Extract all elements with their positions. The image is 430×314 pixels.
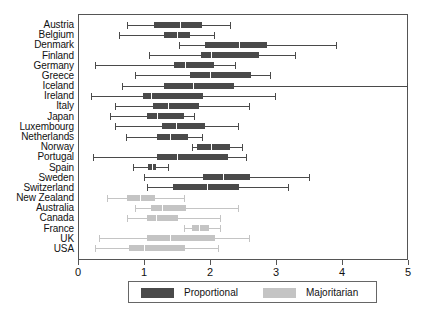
x-axis-tick xyxy=(408,260,409,265)
whisker-cap-min xyxy=(107,195,108,202)
x-axis-tick-label: 2 xyxy=(207,266,213,279)
median-line xyxy=(144,244,145,252)
y-axis-label-usa: USA xyxy=(0,244,74,254)
median-line xyxy=(180,21,181,29)
whisker-cap-max xyxy=(295,52,296,59)
whisker-cap-max xyxy=(220,225,221,232)
whisker-cap-max xyxy=(246,154,247,161)
box-iqr xyxy=(164,83,234,89)
x-axis-tick-label: 5 xyxy=(405,266,411,279)
whisker-cap-min xyxy=(93,154,94,161)
whisker-cap-max xyxy=(336,42,337,49)
legend-label-proportional: Proportional xyxy=(184,287,238,299)
median-line xyxy=(152,163,153,171)
box-iqr xyxy=(143,93,204,99)
median-line xyxy=(185,61,186,69)
whisker-cap-max xyxy=(220,215,221,222)
box-iqr xyxy=(147,113,184,119)
box-plot-chart: AustriaBelgiumDenmarkFinlandGermanyGreec… xyxy=(0,0,430,314)
box-iqr xyxy=(190,72,251,78)
median-line xyxy=(162,204,163,212)
whisker-cap-max xyxy=(275,93,276,100)
x-axis-tick-labels: 012345 xyxy=(78,266,408,282)
whisker-cap-max xyxy=(184,195,185,202)
x-axis-tick xyxy=(144,260,145,265)
median-line xyxy=(170,133,171,141)
whisker-cap-min xyxy=(115,103,116,110)
whisker-cap-max xyxy=(194,113,195,120)
box-plot-row xyxy=(78,243,408,254)
whisker-cap-min xyxy=(127,215,128,222)
median-line xyxy=(211,143,212,151)
whisker-cap-max xyxy=(168,164,169,171)
y-axis-label-italy: Italy xyxy=(0,101,74,111)
median-line xyxy=(156,214,157,222)
box-iqr xyxy=(174,62,214,68)
box-iqr xyxy=(197,144,230,150)
x-axis-tick xyxy=(276,260,277,265)
whisker-cap-max xyxy=(214,32,215,39)
whisker-cap-max xyxy=(218,245,219,252)
box-iqr xyxy=(201,52,259,58)
box-iqr xyxy=(153,103,199,109)
whisker-cap-max xyxy=(407,83,408,90)
y-axis-label-portugal: Portugal xyxy=(0,152,74,162)
median-line xyxy=(193,82,194,90)
box-iqr xyxy=(157,134,187,140)
y-axis-label-denmark: Denmark xyxy=(0,40,74,50)
whisker-cap-min xyxy=(126,134,127,141)
box-iqr xyxy=(205,42,268,48)
box-iqr xyxy=(154,22,202,28)
box-iqr xyxy=(203,174,249,180)
whisker-cap-min xyxy=(135,72,136,79)
whisker-cap-min xyxy=(147,184,148,191)
median-line xyxy=(176,122,177,130)
whisker-cap-max xyxy=(288,184,289,191)
median-line xyxy=(211,51,212,59)
whisker-cap-max xyxy=(309,174,310,181)
whisker-cap-min xyxy=(119,32,120,39)
whisker-cap-max xyxy=(238,123,239,130)
whisker-cap-min xyxy=(135,205,136,212)
whisker-cap-max xyxy=(238,205,239,212)
median-line xyxy=(170,234,171,242)
y-axis-label-canada: Canada xyxy=(0,213,74,223)
box-iqr xyxy=(173,184,239,190)
y-axis-category-labels: AustriaBelgiumDenmarkFinlandGermanyGreec… xyxy=(0,14,74,260)
whisker-cap-min xyxy=(144,174,145,181)
whisker-cap-min xyxy=(91,93,92,100)
whisker-cap-min xyxy=(149,52,150,59)
median-line xyxy=(210,71,211,79)
legend: Proportional Majoritarian xyxy=(128,281,377,303)
legend-entry-majoritarian: Majoritarian xyxy=(263,286,358,299)
box-iqr xyxy=(157,154,228,160)
whisker-cap-max xyxy=(249,103,250,110)
median-line xyxy=(207,183,208,191)
whisker-cap-max xyxy=(242,144,243,151)
x-axis-tick-label: 0 xyxy=(75,266,81,279)
median-line xyxy=(177,153,178,161)
whisker-cap-min xyxy=(110,113,111,120)
box-iqr xyxy=(162,123,205,129)
box-iqr xyxy=(147,215,179,221)
whisker-cap-min xyxy=(133,164,134,171)
whisker-cap-min xyxy=(95,62,96,69)
legend-swatch-proportional xyxy=(141,288,174,298)
x-axis-tick-label: 4 xyxy=(339,266,345,279)
whisker-cap-min xyxy=(127,22,128,29)
whisker-cap-min xyxy=(115,123,116,130)
whisker-cap-max xyxy=(230,22,231,29)
whisker-cap-min xyxy=(122,83,123,90)
whisker-cap-min xyxy=(179,42,180,49)
legend-entry-proportional: Proportional xyxy=(141,286,238,299)
x-axis-tick-label: 1 xyxy=(141,266,147,279)
legend-label-majoritarian: Majoritarian xyxy=(306,287,358,299)
whisker-cap-min xyxy=(184,225,185,232)
box-plot-rows xyxy=(78,14,408,260)
median-line xyxy=(157,112,158,120)
x-axis-tick-label: 3 xyxy=(273,266,279,279)
box-iqr xyxy=(129,245,184,251)
median-line xyxy=(140,194,141,202)
whisker-cap-max xyxy=(202,134,203,141)
legend-swatch-majoritarian xyxy=(263,288,296,298)
